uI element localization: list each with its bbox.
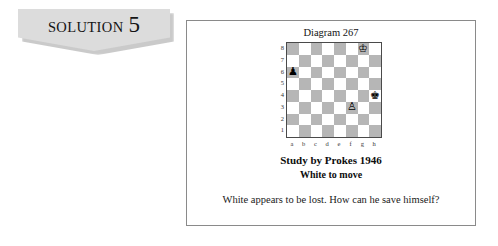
study-caption: Study by Prokes 1946 [187,154,475,166]
square-g1[interactable] [358,125,370,137]
black-pawn-icon[interactable]: ♟ [287,67,299,79]
square-d3[interactable] [322,102,334,114]
rank-label-7: 7 [272,54,284,66]
square-g2[interactable] [358,114,370,126]
file-label-f: f [345,140,357,147]
rank-label-4: 4 [272,89,284,101]
square-b3[interactable] [299,102,311,114]
rank-label-6: 6 [272,66,284,78]
square-b2[interactable] [299,114,311,126]
square-g8[interactable]: ♔ [358,43,370,55]
file-label-d: d [321,140,333,147]
file-labels: abcdefgh [286,140,380,147]
square-g4[interactable] [358,90,370,102]
square-a1[interactable] [287,125,299,137]
square-a4[interactable] [287,90,299,102]
file-label-e: e [333,140,345,147]
square-h1[interactable] [369,125,381,137]
rank-labels: 87654321 [272,42,284,136]
square-a3[interactable] [287,102,299,114]
square-g6[interactable] [358,67,370,79]
chess-board[interactable]: ♔♟♚♙ [286,42,382,138]
file-label-c: c [310,140,322,147]
white-king-icon[interactable]: ♔ [358,43,370,55]
square-e4[interactable] [334,90,346,102]
square-a2[interactable] [287,114,299,126]
diagram-title: Diagram 267 [187,27,475,38]
square-d2[interactable] [322,114,334,126]
file-label-b: b [298,140,310,147]
square-f5[interactable] [346,78,358,90]
rank-label-3: 3 [272,101,284,113]
rank-label-1: 1 [272,124,284,136]
square-h4[interactable]: ♚ [369,90,381,102]
square-h5[interactable] [369,78,381,90]
square-b5[interactable] [299,78,311,90]
square-e7[interactable] [334,55,346,67]
square-d4[interactable] [322,90,334,102]
solution-number: 5 [129,15,141,36]
square-d8[interactable] [322,43,334,55]
square-h6[interactable] [369,67,381,79]
square-c5[interactable] [311,78,323,90]
square-d5[interactable] [322,78,334,90]
banner-label-group: SOLUTION 5 [48,15,140,36]
square-e5[interactable] [334,78,346,90]
square-b4[interactable] [299,90,311,102]
square-h8[interactable] [369,43,381,55]
file-label-g: g [357,140,369,147]
board-area: 87654321 ♔♟♚♙ abcdefgh [272,42,390,147]
square-c4[interactable] [311,90,323,102]
square-f3[interactable]: ♙ [346,102,358,114]
question-text: White appears to be lost. How can he sav… [187,194,475,205]
black-king-icon[interactable]: ♚ [369,90,381,102]
square-c3[interactable] [311,102,323,114]
square-c2[interactable] [311,114,323,126]
file-label-a: a [286,140,298,147]
white-pawn-icon[interactable]: ♙ [346,102,358,114]
square-h3[interactable] [369,102,381,114]
rank-label-5: 5 [272,77,284,89]
square-e1[interactable] [334,125,346,137]
solution-banner: SOLUTION 5 [18,9,170,51]
square-d7[interactable] [322,55,334,67]
square-b1[interactable] [299,125,311,137]
square-e3[interactable] [334,102,346,114]
square-h2[interactable] [369,114,381,126]
square-a8[interactable] [287,43,299,55]
square-a5[interactable] [287,78,299,90]
square-f2[interactable] [346,114,358,126]
square-b7[interactable] [299,55,311,67]
solution-word: SOLUTION [48,19,124,36]
square-f8[interactable] [346,43,358,55]
square-f4[interactable] [346,90,358,102]
rank-label-8: 8 [272,42,284,54]
square-f1[interactable] [346,125,358,137]
square-a6[interactable]: ♟ [287,67,299,79]
square-e2[interactable] [334,114,346,126]
square-c1[interactable] [311,125,323,137]
square-f7[interactable] [346,55,358,67]
rank-label-2: 2 [272,113,284,125]
square-c8[interactable] [311,43,323,55]
square-g3[interactable] [358,102,370,114]
square-e6[interactable] [334,67,346,79]
square-g5[interactable] [358,78,370,90]
square-d1[interactable] [322,125,334,137]
square-f6[interactable] [346,67,358,79]
square-b6[interactable] [299,67,311,79]
square-c7[interactable] [311,55,323,67]
square-g7[interactable] [358,55,370,67]
square-e8[interactable] [334,43,346,55]
move-caption: White to move [187,169,475,180]
square-a7[interactable] [287,55,299,67]
square-b8[interactable] [299,43,311,55]
file-label-h: h [368,140,380,147]
square-h7[interactable] [369,55,381,67]
board-row: 87654321 ♔♟♚♙ [272,42,390,138]
square-d6[interactable] [322,67,334,79]
diagram-panel: Diagram 267 87654321 ♔♟♚♙ abcdefgh Study… [186,20,476,226]
square-c6[interactable] [311,67,323,79]
